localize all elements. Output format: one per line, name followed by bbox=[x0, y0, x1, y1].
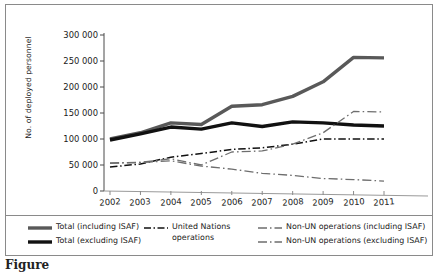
figure-container: No. of deployed personnel 300 000250 000… bbox=[5, 4, 433, 256]
legend-item-non-un-including-isaf: Non-UN operations (including ISAF) bbox=[258, 222, 425, 233]
series-line bbox=[110, 161, 384, 181]
legend-label-united-nations-operations: United Nations operations bbox=[172, 222, 230, 243]
y-axis-tick-label: 50 000 bbox=[44, 160, 98, 170]
y-axis-tick-label: 100 000 bbox=[44, 134, 98, 144]
legend-swatch-dashdot-black bbox=[144, 222, 168, 233]
legend-item-total-including-isaf: Total (including ISAF) bbox=[28, 222, 139, 233]
legend-label-non-un-excluding-isaf: Non-UN operations (excluding ISAF) bbox=[286, 236, 427, 247]
legend-label-total-including-isaf: Total (including ISAF) bbox=[56, 222, 139, 233]
y-axis-tick-label: 0 bbox=[44, 186, 98, 196]
plot-area: No. of deployed personnel 300 000250 000… bbox=[6, 5, 432, 215]
legend-item-total-excluding-isaf: Total (excluding ISAF) bbox=[28, 236, 141, 247]
y-axis-tick-label: 300 000 bbox=[44, 30, 98, 40]
figure-caption: Figure bbox=[5, 258, 435, 272]
y-axis-tick-label: 250 000 bbox=[44, 56, 98, 66]
y-axis-tick-label: 200 000 bbox=[44, 82, 98, 92]
legend-label-non-un-including-isaf: Non-UN operations (including ISAF) bbox=[286, 222, 425, 233]
legend-item-united-nations-operations: United Nations operations bbox=[144, 222, 230, 243]
series-line bbox=[110, 139, 384, 167]
legend-swatch-solid-gray bbox=[28, 222, 52, 233]
series-line bbox=[110, 57, 384, 139]
legend-swatch-dash-gray-a bbox=[258, 222, 282, 233]
legend-item-non-un-excluding-isaf: Non-UN operations (excluding ISAF) bbox=[258, 236, 427, 247]
y-axis-tick-label: 150 000 bbox=[44, 108, 98, 118]
legend-swatch-dash-gray-b bbox=[258, 236, 282, 247]
legend-label-total-excluding-isaf: Total (excluding ISAF) bbox=[56, 236, 141, 247]
legend-swatch-solid-black bbox=[28, 236, 52, 247]
series-line bbox=[110, 122, 384, 140]
chart-legend: Total (including ISAF) Total (excluding … bbox=[6, 216, 432, 256]
series-line bbox=[110, 111, 384, 165]
